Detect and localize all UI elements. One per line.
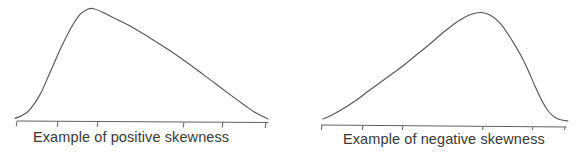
axis-tick <box>183 122 184 128</box>
positive-skewness-panel: Example of positive skewness <box>0 0 291 155</box>
axis-tick <box>97 121 98 127</box>
positive-skewness-curve-plot <box>0 0 291 130</box>
axis-tick <box>402 126 403 130</box>
skewness-figure: Example of positive skewness Example of … <box>0 0 583 155</box>
positive-skewness-caption: Example of positive skewness <box>33 129 229 145</box>
x-axis-line <box>17 121 268 123</box>
axis-tick <box>16 121 17 127</box>
axis-tick <box>265 122 266 128</box>
negative-skew-density-curve <box>323 12 568 121</box>
axis-tick <box>57 121 58 127</box>
negative-skewness-curve-plot <box>291 0 583 130</box>
x-axis-line <box>321 125 567 127</box>
negative-skewness-caption: Example of negative skewness <box>343 131 545 147</box>
axis-tick <box>362 125 363 130</box>
negative-skewness-panel: Example of negative skewness <box>291 0 583 155</box>
axis-tick <box>482 126 483 130</box>
axis-tick <box>321 125 322 130</box>
axis-tick <box>222 122 223 128</box>
positive-skew-density-curve <box>15 8 268 119</box>
